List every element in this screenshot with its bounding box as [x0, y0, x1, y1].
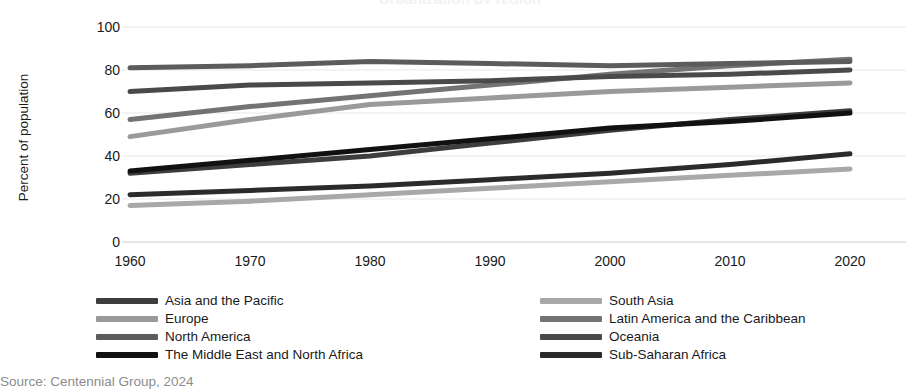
- legend-item[interactable]: Sub-Saharan Africa: [540, 346, 912, 364]
- legend-item[interactable]: Oceania: [540, 328, 912, 346]
- legend-label: Sub-Saharan Africa: [609, 346, 726, 364]
- series-line: [130, 169, 850, 206]
- legend-label: South Asia: [609, 292, 674, 310]
- legend-label: Latin America and the Caribbean: [609, 310, 806, 328]
- legend-label: Europe: [165, 310, 209, 328]
- legend-color-swatch: [540, 352, 602, 358]
- x-tick-label: 1960: [90, 253, 170, 269]
- legend-color-swatch: [96, 352, 158, 358]
- legend-item[interactable]: South Asia: [540, 292, 912, 310]
- source-note: Source: Centennial Group, 2024: [0, 374, 430, 389]
- legend-label: Oceania: [609, 328, 659, 346]
- legend-item[interactable]: Asia and the Pacific: [96, 292, 516, 310]
- chart-legend: Asia and the PacificEuropeNorth AmericaT…: [0, 292, 912, 366]
- legend-column-left: Asia and the PacificEuropeNorth AmericaT…: [96, 292, 516, 364]
- x-tick-label: 2000: [570, 253, 650, 269]
- legend-color-swatch: [96, 298, 158, 304]
- legend-item[interactable]: Latin America and the Caribbean: [540, 310, 912, 328]
- legend-column-right: South AsiaLatin America and the Caribbea…: [540, 292, 912, 364]
- x-tick-label: 1970: [210, 253, 290, 269]
- x-tick-label: 2010: [690, 253, 770, 269]
- legend-item[interactable]: The Middle East and North Africa: [96, 346, 516, 364]
- legend-label: Asia and the Pacific: [165, 292, 284, 310]
- x-tick-label: 1980: [330, 253, 410, 269]
- x-tick-label: 2020: [810, 253, 890, 269]
- x-tick-label: 1990: [450, 253, 530, 269]
- legend-label: The Middle East and North Africa: [165, 346, 363, 364]
- legend-item[interactable]: Europe: [96, 310, 516, 328]
- legend-color-swatch: [540, 316, 602, 322]
- legend-item[interactable]: North America: [96, 328, 516, 346]
- legend-color-swatch: [540, 334, 602, 340]
- legend-color-swatch: [96, 334, 158, 340]
- legend-color-swatch: [540, 298, 602, 304]
- legend-label: North America: [165, 328, 251, 346]
- legend-color-swatch: [96, 316, 158, 322]
